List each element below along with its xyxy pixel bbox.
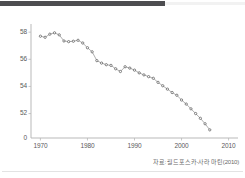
data-point [152,77,154,79]
data-point [180,99,182,101]
y-axis-tick-label: 58 [11,29,27,36]
data-point [58,34,60,36]
data-point [209,129,211,131]
data-point [185,103,187,105]
data-point [82,42,84,44]
data-point [195,112,197,114]
data-point [124,66,126,68]
data-point [147,76,149,78]
y-axis-tick-label: 52 [11,110,27,117]
x-axis-tick-label: 2000 [169,143,195,150]
data-series-markers [39,32,211,131]
bottom-divider [2,171,243,172]
data-point [190,108,192,110]
data-point [115,68,117,70]
data-point [86,47,88,49]
x-axis-tick-label: 2010 [216,143,242,150]
data-point [176,94,178,96]
y-axis-tick-label: 0 [11,135,27,142]
data-point [157,81,159,83]
header-band-tail [165,2,245,5]
data-point [129,67,131,69]
data-point [162,85,164,87]
y-axis-tick-label: 54 [11,83,27,90]
data-point [143,74,145,76]
header-band [0,1,165,6]
data-point [171,91,173,93]
data-point [166,88,168,90]
data-point [63,40,65,42]
data-point [100,62,102,64]
data-point [91,51,93,53]
data-point [119,70,121,72]
chart-canvas [0,10,245,145]
data-point [39,35,41,37]
data-point [44,36,46,38]
data-point [72,40,74,42]
x-axis-tick-label: 1990 [122,143,148,150]
chart-page: 052545658 19701980199020002010 자료: 월드포스카… [0,0,245,178]
chart-axes [31,24,238,138]
x-axis-tick-label: 1980 [74,143,100,150]
data-point [96,59,98,61]
data-point [67,40,69,42]
data-point [77,39,79,41]
data-point [199,117,201,119]
source-note: 자료: 월드포스카-사라 마틴(2010) [153,157,239,166]
data-point [133,69,135,71]
line-chart: 052545658 19701980199020002010 [0,10,245,145]
data-point [53,32,55,34]
data-point [138,72,140,74]
data-series-line [40,33,209,130]
data-point [204,123,206,125]
data-point [105,64,107,66]
data-point [110,64,112,66]
x-axis-tick-label: 1970 [27,143,53,150]
y-axis-tick-label: 56 [11,56,27,63]
data-point [49,33,51,35]
